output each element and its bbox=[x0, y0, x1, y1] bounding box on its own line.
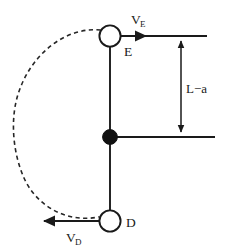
dimension-label-l-minus-a: L−a bbox=[186, 81, 207, 96]
svg-text:E: E bbox=[140, 19, 146, 29]
node-e-label: E bbox=[124, 44, 132, 59]
node-e-circle bbox=[99, 25, 120, 46]
node-d-label: D bbox=[126, 215, 136, 230]
pivot-point-dot bbox=[103, 130, 118, 145]
swing-trajectory-arc bbox=[13, 30, 100, 219]
physics-diagram-figure: E D V E V D L−a bbox=[0, 0, 237, 249]
svg-text:D: D bbox=[75, 237, 82, 247]
velocity-d-label: V D bbox=[66, 230, 82, 247]
diagram-canvas: E D V E V D L−a bbox=[0, 0, 237, 249]
velocity-e-label: V E bbox=[131, 12, 146, 29]
node-d-circle bbox=[99, 210, 120, 231]
